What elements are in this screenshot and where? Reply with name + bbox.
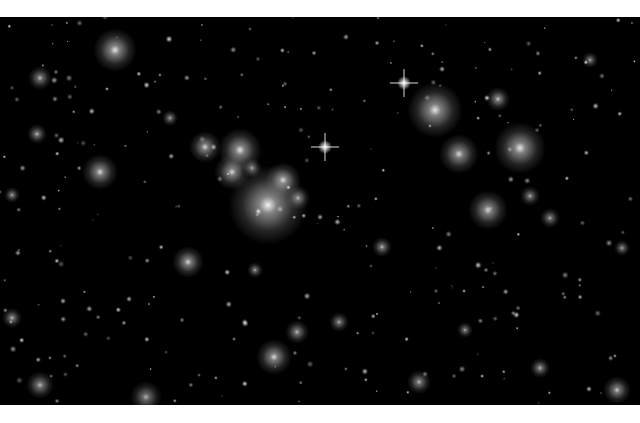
faint-galaxy <box>486 151 491 156</box>
faint-galaxy <box>502 370 506 374</box>
galaxy <box>614 240 630 256</box>
faint-galaxy <box>304 158 309 163</box>
faint-galaxy <box>277 206 284 213</box>
faint-galaxy <box>52 96 58 102</box>
faint-galaxy <box>513 312 519 318</box>
faint-galaxy <box>292 350 297 355</box>
faint-galaxy <box>148 303 151 306</box>
faint-galaxy <box>374 197 378 201</box>
faint-galaxy <box>307 361 314 368</box>
faint-galaxy <box>492 271 497 276</box>
faint-galaxy <box>146 131 148 133</box>
faint-galaxy <box>583 150 588 155</box>
faint-galaxy <box>409 291 412 294</box>
faint-galaxy <box>221 395 223 397</box>
faint-galaxy <box>431 226 434 229</box>
faint-galaxy <box>356 203 361 208</box>
faint-galaxy <box>51 77 57 83</box>
galaxy <box>540 208 560 228</box>
faint-galaxy <box>48 356 52 360</box>
faint-galaxy <box>3 155 6 158</box>
faint-galaxy <box>389 62 392 65</box>
faint-galaxy <box>537 71 542 76</box>
faint-galaxy <box>72 109 76 113</box>
faint-galaxy <box>498 114 502 118</box>
faint-galaxy <box>225 301 231 307</box>
faint-galaxy <box>440 66 446 72</box>
faint-galaxy <box>600 392 603 395</box>
faint-galaxy <box>307 135 311 139</box>
faint-galaxy <box>574 56 578 60</box>
faint-galaxy <box>83 290 86 293</box>
galaxy <box>162 110 178 126</box>
faint-galaxy <box>577 277 582 282</box>
faint-galaxy <box>578 283 582 287</box>
faint-galaxy <box>503 377 506 380</box>
faint-galaxy <box>93 143 95 145</box>
faint-galaxy <box>525 40 532 47</box>
faint-galaxy <box>304 292 311 299</box>
faint-galaxy <box>488 47 492 51</box>
faint-galaxy <box>115 307 120 312</box>
faint-galaxy <box>274 365 277 368</box>
faint-galaxy <box>516 233 519 236</box>
faint-galaxy <box>475 262 482 269</box>
galaxy-cluster-photo <box>0 17 640 405</box>
faint-galaxy <box>347 205 350 208</box>
faint-galaxy <box>76 19 83 26</box>
faint-galaxy <box>362 368 368 374</box>
faint-galaxy <box>7 24 10 27</box>
faint-galaxy <box>15 250 21 256</box>
faint-galaxy <box>364 378 368 382</box>
faint-galaxy <box>197 373 201 377</box>
faint-galaxy <box>524 177 531 184</box>
faint-galaxy <box>483 42 486 45</box>
faint-galaxy <box>631 21 634 24</box>
faint-galaxy <box>516 306 521 311</box>
faint-galaxy <box>356 331 360 335</box>
faint-galaxy <box>436 245 442 251</box>
faint-galaxy <box>334 218 340 224</box>
faint-galaxy <box>476 116 480 120</box>
galaxy <box>486 87 510 111</box>
galaxy <box>130 381 162 405</box>
faint-galaxy <box>516 327 519 330</box>
faint-galaxy <box>241 381 247 387</box>
faint-galaxy <box>126 297 132 303</box>
faint-galaxy <box>144 337 149 342</box>
faint-galaxy <box>474 100 476 102</box>
faint-galaxy <box>342 228 345 231</box>
faint-galaxy <box>55 399 60 404</box>
faint-galaxy <box>169 154 175 160</box>
faint-galaxy <box>569 107 574 112</box>
star <box>397 76 411 90</box>
galaxy <box>439 134 479 174</box>
faint-galaxy <box>331 108 335 112</box>
faint-galaxy <box>370 148 372 150</box>
star <box>318 140 332 154</box>
faint-galaxy <box>511 68 513 70</box>
faint-galaxy <box>561 291 566 296</box>
faint-galaxy <box>92 219 94 221</box>
faint-galaxy <box>173 398 177 402</box>
faint-galaxy <box>293 216 297 220</box>
faint-galaxy <box>166 36 173 43</box>
faint-galaxy <box>75 363 80 368</box>
faint-galaxy <box>363 99 366 102</box>
faint-galaxy <box>613 354 617 358</box>
faint-galaxy <box>88 108 95 115</box>
faint-galaxy <box>610 89 613 92</box>
faint-galaxy <box>317 222 319 224</box>
faint-galaxy <box>267 103 270 106</box>
faint-galaxy <box>175 205 178 208</box>
faint-galaxy <box>343 34 349 40</box>
faint-galaxy <box>155 108 161 114</box>
faint-galaxy <box>16 207 22 213</box>
faint-galaxy <box>204 77 207 80</box>
faint-galaxy <box>122 320 127 325</box>
faint-galaxy <box>492 316 498 322</box>
faint-galaxy <box>312 51 317 56</box>
faint-galaxy <box>102 17 108 20</box>
faint-galaxy <box>97 214 99 216</box>
faint-galaxy <box>280 48 284 52</box>
